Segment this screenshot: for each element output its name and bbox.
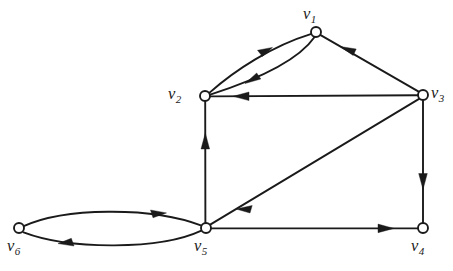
vertex-v2[interactable] [200, 91, 210, 101]
graph-canvas [0, 0, 453, 271]
vertex-label-v6-sub: 6 [15, 245, 21, 257]
vertex-label-v3: v3 [431, 85, 444, 102]
edge-v6-to-v5-line [24, 212, 202, 226]
edge-v5-to-v4-arrowhead [378, 224, 394, 233]
vertex-label-v3-base: v [431, 83, 438, 102]
directed-graph-figure: v1 v2 v3 v4 v5 v6 [0, 0, 453, 271]
edge-v5-to-v2-arrowhead [201, 133, 210, 149]
vertex-label-v4-sub: 4 [419, 245, 425, 257]
vertex-v6[interactable] [14, 223, 24, 233]
edge-v3-to-v2 [211, 92, 419, 101]
vertex-label-v5: v5 [194, 238, 207, 255]
edge-v3-to-v1-line [320, 35, 419, 92]
edge-v1-to-v2 [210, 37, 314, 95]
vertex-v5[interactable] [201, 223, 211, 233]
edge-v1-to-v2-arrowhead [245, 73, 261, 84]
vertex-label-v6-base: v [7, 236, 14, 255]
vertex-label-v3-sub: 3 [439, 92, 445, 104]
vertex-v4[interactable] [418, 223, 428, 233]
edge-v3-to-v1 [320, 35, 419, 92]
vertex-label-v2-base: v [168, 84, 175, 103]
vertex-label-v4: v4 [411, 238, 424, 255]
edge-v5-to-v4 [211, 224, 418, 233]
vertex-label-v5-base: v [194, 236, 201, 255]
edge-v3-to-v1-arrowhead [340, 47, 356, 56]
edge-v5-to-v6 [24, 231, 202, 246]
edge-v1-to-v2-line [210, 37, 314, 95]
edge-v6-to-v5 [24, 210, 202, 226]
vertex-label-v1-sub: 1 [311, 13, 317, 25]
vertex-label-v2-sub: 2 [176, 93, 182, 105]
edge-v3-to-v5-line [210, 99, 419, 225]
vertex-label-v5-sub: 5 [202, 245, 208, 257]
vertex-label-v6: v6 [7, 238, 20, 255]
vertex-label-v1-base: v [303, 4, 310, 23]
edge-v2-to-v1 [210, 34, 312, 93]
edge-v3-to-v4-arrowhead [419, 174, 428, 190]
edge-v5-to-v2 [201, 101, 210, 223]
edge-v3-to-v5 [210, 99, 419, 225]
vertex-v3[interactable] [418, 90, 428, 100]
vertex-label-v2: v2 [168, 86, 181, 103]
edge-v5-to-v6-line [24, 231, 202, 246]
edge-v3-to-v4 [419, 100, 428, 223]
vertex-label-v4-base: v [411, 236, 418, 255]
vertex-v1[interactable] [311, 27, 321, 37]
edge-group [24, 34, 428, 246]
vertex-label-v1: v1 [303, 6, 316, 23]
edge-v3-to-v2-arrowhead [233, 92, 249, 101]
edge-v2-to-v1-line [210, 34, 312, 93]
